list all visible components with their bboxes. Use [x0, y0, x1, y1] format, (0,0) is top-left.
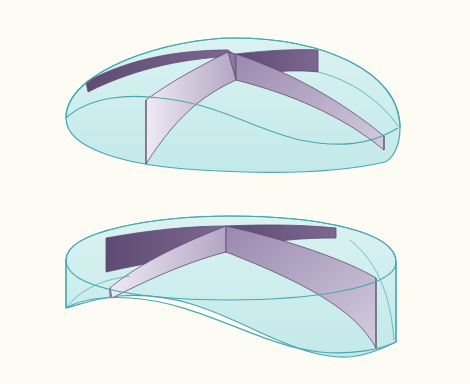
lower-cylinder [66, 216, 396, 357]
upper-dome [66, 38, 400, 172]
diagram-canvas [0, 0, 470, 384]
diagram-figure [0, 0, 470, 384]
